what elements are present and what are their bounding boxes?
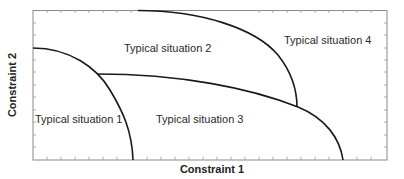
region-label-3: Typical situation 3: [156, 113, 243, 125]
y-axis-label: Constraint 2: [6, 53, 18, 117]
plot-frame: [33, 11, 387, 161]
x-axis-ticks: [47, 11, 371, 161]
region-label-1: Typical situation 1: [35, 113, 122, 125]
region-label-2: Typical situation 2: [124, 42, 211, 54]
region-label-4: Typical situation 4: [284, 34, 371, 46]
boundary-curve-2: [138, 11, 297, 108]
x-axis-label: Constraint 1: [0, 163, 404, 175]
diagram-canvas: [0, 0, 404, 179]
boundary-curve-1: [33, 48, 133, 160]
